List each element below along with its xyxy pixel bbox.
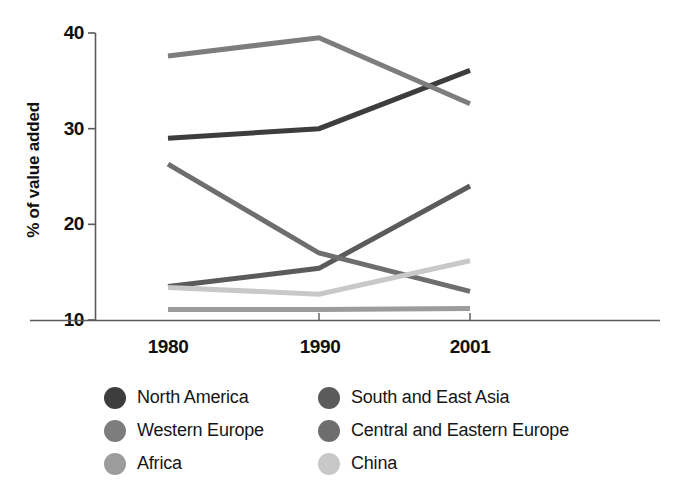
y-axis-ticks [88,33,96,320]
chart-figure: % of value added 40 30 20 10 1980 1990 2… [0,0,678,488]
series-line-western-europe [168,38,470,104]
legend-item-label: Africa [137,453,182,474]
x-axis-ticks [319,313,470,321]
chart-axes [30,33,660,321]
legend-swatch-icon [318,453,340,475]
legend-item-label: North America [137,387,248,408]
line-chart-plot [0,0,678,360]
legend-swatch-icon [104,420,126,442]
legend-swatch-icon [318,387,340,409]
legend-swatch-icon [104,453,126,475]
legend-item-africa[interactable]: Africa [104,453,318,475]
legend-item-label: China [351,453,397,474]
legend-item-north-america[interactable]: North America [104,387,318,409]
chart-series-lines [168,38,470,310]
legend-item-western-europe[interactable]: Western Europe [104,420,318,442]
legend-swatch-icon [104,387,126,409]
legend-item-label: Central and Eastern Europe [351,420,569,441]
legend-item-label: Western Europe [137,420,264,441]
legend-swatch-icon [318,420,340,442]
legend-item-central-and-eastern-europe[interactable]: Central and Eastern Europe [318,420,664,442]
chart-legend: North AmericaSouth and East AsiaWestern … [104,381,664,480]
legend-item-south-and-east-asia[interactable]: South and East Asia [318,387,664,409]
legend-item-china[interactable]: China [318,453,664,475]
series-line-north-america [168,70,470,138]
legend-item-label: South and East Asia [351,387,509,408]
series-line-africa [168,309,470,310]
